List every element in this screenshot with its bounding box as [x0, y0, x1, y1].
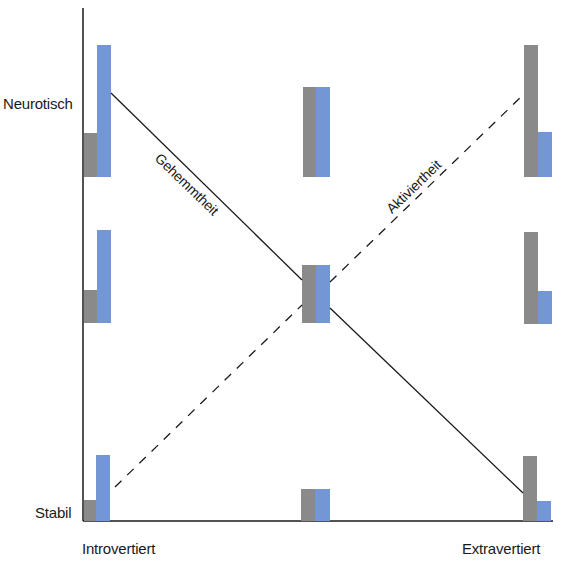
aktiviertheit-line-upper [330, 95, 523, 282]
aktiviertheit-line [115, 305, 302, 487]
bar-gray [303, 87, 316, 177]
bar-blue [538, 291, 552, 324]
bar-gray [84, 500, 96, 521]
bar-group-mitte-introvertiert [84, 230, 111, 323]
y-label-stabil: Stabil [35, 504, 71, 521]
diagram-personality-dimensions: Neurotisch Stabil Introvertiert Extraver… [0, 0, 561, 575]
bar-group-stabil-mitte [301, 489, 330, 521]
bar-group-stabil-introvertiert [84, 455, 110, 521]
bar-group-neurotisch-mitte [303, 87, 330, 177]
bar-gray [524, 45, 538, 177]
gehemmtheit-line [111, 93, 302, 280]
bar-group-neurotisch-introvertiert [84, 45, 111, 177]
bar-blue [316, 265, 330, 323]
bar-gray [84, 133, 97, 177]
bar-group-stabil-extravertiert [523, 456, 551, 521]
bar-group-neurotisch-extravertiert [524, 45, 552, 177]
bar-gray [523, 456, 537, 521]
bar-blue [316, 87, 330, 177]
bar-group-mitte-extravertiert [524, 232, 552, 324]
gehemmtheit-line-lower [330, 308, 523, 493]
x-label-extravertiert: Extravertiert [462, 540, 540, 557]
bar-group-mitte-mitte [302, 265, 330, 323]
bar-gray [302, 265, 316, 323]
bar-blue [97, 45, 111, 177]
y-label-neurotisch: Neurotisch [3, 95, 73, 112]
bar-gray [84, 290, 97, 323]
bar-blue [315, 489, 330, 521]
bar-blue [97, 230, 111, 323]
diagram-canvas [0, 0, 561, 575]
bar-blue [537, 501, 551, 521]
bar-blue [538, 132, 552, 177]
bar-gray [524, 232, 538, 324]
bar-blue [96, 455, 110, 521]
bar-gray [301, 489, 315, 521]
x-label-introvertiert: Introvertiert [82, 540, 155, 557]
